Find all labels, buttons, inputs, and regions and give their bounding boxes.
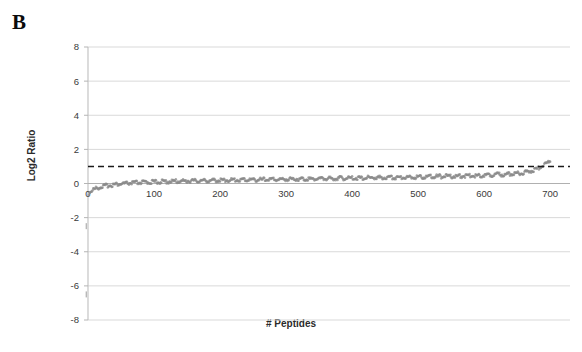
data-point <box>155 179 158 182</box>
chart-plot-area: -8-6-4-202468 0100200300400500600700 <box>0 0 582 352</box>
y-axis-line <box>84 47 88 320</box>
y-tick-label: -4 <box>71 246 79 257</box>
data-point <box>385 178 388 181</box>
y-tick-label: 0 <box>74 178 79 189</box>
x-tick-label: 600 <box>476 188 492 199</box>
x-tick-label: 400 <box>344 188 360 199</box>
y-tick-label: -2 <box>71 212 79 223</box>
data-point <box>111 185 114 188</box>
data-point <box>429 174 432 177</box>
figure-panel-b: B Log2 Ratio # Peptides -8-6-4-202468 01… <box>0 0 582 352</box>
x-tick-label: 700 <box>542 188 558 199</box>
data-point <box>468 173 471 176</box>
y-tick-label: 2 <box>74 144 79 155</box>
data-point <box>87 194 90 197</box>
data-point <box>361 176 364 179</box>
data-point <box>478 174 481 177</box>
data-point <box>498 172 501 175</box>
data-point <box>549 161 552 164</box>
y-tick-label: 8 <box>74 41 79 52</box>
x-tick-label: 500 <box>410 188 426 199</box>
data-point <box>175 178 178 181</box>
y-tick-label: 4 <box>74 110 79 121</box>
x-tick-label: 300 <box>278 188 294 199</box>
data-point <box>400 175 403 178</box>
data-point <box>263 177 266 180</box>
data-point <box>474 176 477 179</box>
x-tick-label: 200 <box>212 188 228 199</box>
data-point <box>101 187 104 190</box>
y-tick-label: -6 <box>71 280 79 291</box>
data-point <box>532 170 535 173</box>
data-point <box>272 176 275 179</box>
data-point <box>458 173 461 176</box>
data-point <box>160 182 163 185</box>
x-tick-label: 100 <box>146 188 162 199</box>
data-point <box>130 183 133 186</box>
data-point <box>464 177 467 180</box>
data-point <box>390 175 393 178</box>
data-point <box>356 178 359 181</box>
y-tick-label: -8 <box>71 314 79 325</box>
y-tick-label: 6 <box>74 76 79 87</box>
data-point <box>239 180 242 183</box>
data-point <box>219 180 222 183</box>
data-point <box>150 183 153 186</box>
data-point <box>523 173 526 176</box>
data-point <box>233 177 236 180</box>
data-point <box>449 173 452 176</box>
data-point <box>483 175 486 178</box>
data-point <box>351 175 354 178</box>
x-tick-labels: 0100200300400500600700 <box>85 188 558 199</box>
y-tick-labels: -8-6-4-202468 <box>71 41 79 325</box>
data-point <box>140 182 143 185</box>
